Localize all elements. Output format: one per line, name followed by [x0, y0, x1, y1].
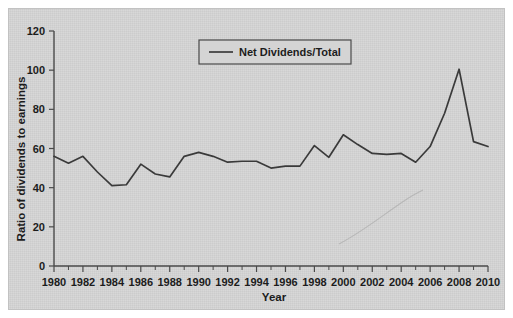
x-axis: 1980198219841986198819901992199419961998…: [42, 266, 500, 288]
x-tick-label: 1984: [100, 276, 125, 288]
y-tick-label: 0: [39, 260, 45, 272]
legend-label: Net Dividends/Total: [239, 46, 341, 58]
y-axis-title: Ratio of dividends to earnings: [15, 77, 27, 242]
x-tick-label: 1998: [302, 276, 326, 288]
chart-panel: 020406080100120 198019821984198619881990…: [8, 8, 505, 310]
x-tick-label: 1990: [186, 276, 210, 288]
x-tick-label: 1992: [215, 276, 239, 288]
x-tick-label: 2006: [418, 276, 442, 288]
x-tick-label: 1986: [129, 276, 153, 288]
chart-legend[interactable]: Net Dividends/Total: [199, 40, 351, 64]
x-tick-label: 2010: [476, 276, 500, 288]
line-chart: 020406080100120 198019821984198619881990…: [9, 9, 505, 310]
y-axis: 020406080100120: [27, 25, 54, 272]
x-tick-label: 2004: [389, 276, 414, 288]
data-series-group: [54, 69, 488, 186]
y-tick-label: 120: [27, 25, 45, 37]
y-tick-label: 80: [33, 103, 45, 115]
x-tick-label: 1982: [71, 276, 95, 288]
x-tick-label: 2008: [447, 276, 471, 288]
paper-smudge: [339, 190, 423, 244]
x-tick-label: 2000: [331, 276, 355, 288]
y-tick-label: 40: [33, 182, 45, 194]
y-tick-label: 100: [27, 64, 45, 76]
x-tick-label: 1994: [244, 276, 269, 288]
x-tick-label: 1988: [157, 276, 181, 288]
chart-figure: 020406080100120 198019821984198619881990…: [0, 0, 513, 318]
y-tick-label: 60: [33, 143, 45, 155]
data-line-net-dividends-total: [54, 69, 488, 186]
y-tick-label: 20: [33, 221, 45, 233]
x-tick-label: 1996: [273, 276, 297, 288]
x-tick-label: 2002: [360, 276, 384, 288]
x-axis-title: Year: [262, 291, 287, 303]
x-tick-label: 1980: [42, 276, 66, 288]
